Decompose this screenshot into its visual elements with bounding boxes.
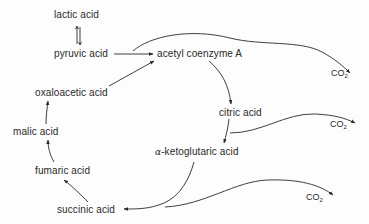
node-alpha-ketoglutaric-acid: α-ketoglutaric acid: [155, 146, 239, 158]
arrow-succinic-to-fumaric: [64, 180, 88, 202]
ketoglutaric-label: -ketoglutaric acid: [161, 146, 238, 157]
co2-product-2: CO2: [330, 119, 347, 132]
arrow-ketoglutaric-to-succinic: [124, 162, 194, 209]
arrow-citric-to-ketoglutaric: [224, 119, 229, 143]
node-oxaloacetic-acid: oxaloacetic acid: [35, 87, 108, 99]
node-malic-acid: malic acid: [13, 126, 58, 138]
arrow-malic-to-oxaloacetic: [46, 101, 48, 124]
arrow-oxaloacetic-to-acetyl: [109, 61, 154, 86]
node-acetyl-coenzyme-a: acetyl coenzyme A: [157, 48, 242, 60]
node-fumaric-acid: fumaric acid: [35, 165, 90, 177]
pathway-arrows: [0, 0, 369, 224]
node-citric-acid: citric acid: [219, 107, 262, 119]
node-succinic-acid: succinic acid: [57, 204, 115, 216]
node-pyruvic-acid: pyruvic acid: [54, 48, 108, 60]
krebs-cycle-diagram: lactic acid pyruvic acid acetyl coenzyme…: [0, 0, 369, 224]
co2-product-1: CO2: [331, 68, 348, 81]
node-lactic-acid: lactic acid: [54, 9, 99, 21]
arrow-fumaric-to-malic: [48, 140, 54, 162]
arrow-acetyl-to-citric: [209, 61, 231, 104]
co2-product-3: CO2: [306, 192, 323, 205]
